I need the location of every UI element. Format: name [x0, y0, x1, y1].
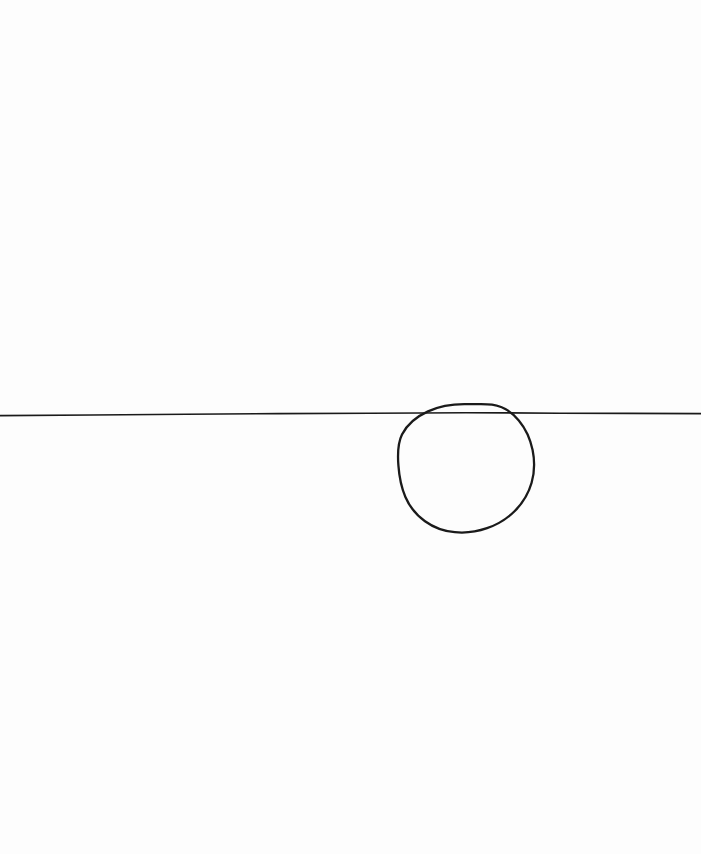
sketch-svg [0, 0, 701, 854]
drawing-canvas: A nearly horizontal hand-drawn line span… [0, 0, 701, 854]
page-background [0, 0, 701, 854]
